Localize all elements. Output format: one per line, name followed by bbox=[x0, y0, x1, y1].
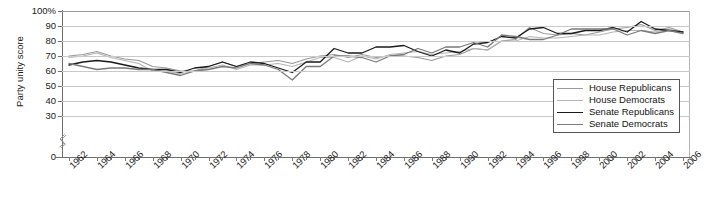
legend-item[interactable]: Senate Republicans bbox=[557, 106, 674, 118]
series-line bbox=[69, 29, 683, 80]
y-tick-label: 30 bbox=[0, 111, 56, 121]
legend-item[interactable]: House Democrats bbox=[557, 94, 674, 106]
legend-label: House Republicans bbox=[589, 83, 671, 93]
legend-item[interactable]: House Republicans bbox=[557, 82, 674, 94]
legend-line-swatch bbox=[557, 100, 583, 101]
y-tick-label: 0 bbox=[0, 152, 56, 162]
chart-legend: House RepublicansHouse DemocratsSenate R… bbox=[553, 79, 680, 133]
legend-line-swatch bbox=[557, 112, 583, 113]
y-tick-label: 50 bbox=[0, 81, 56, 91]
legend-label: Senate Republicans bbox=[589, 107, 674, 117]
gridline bbox=[62, 41, 690, 42]
y-tick-label: 90 bbox=[0, 21, 56, 31]
y-tick-label: 80 bbox=[0, 36, 56, 46]
gridline bbox=[62, 26, 690, 27]
legend-line-swatch bbox=[557, 124, 583, 125]
party-unity-chart: Party unity score 100%908070605040300 19… bbox=[0, 0, 714, 199]
y-tick-label: 40 bbox=[0, 96, 56, 106]
plot-top-border bbox=[62, 11, 690, 12]
legend-label: House Democrats bbox=[589, 95, 665, 105]
legend-line-swatch bbox=[557, 88, 583, 89]
y-tick-label: 70 bbox=[0, 51, 56, 61]
legend-item[interactable]: Senate Democrats bbox=[557, 118, 674, 130]
y-tick-label: 100% bbox=[0, 6, 56, 16]
legend-label: Senate Democrats bbox=[589, 119, 668, 129]
gridline bbox=[62, 71, 690, 72]
y-tick-label: 60 bbox=[0, 66, 56, 76]
series-line bbox=[69, 25, 683, 72]
plot-right-border bbox=[689, 11, 690, 157]
gridline bbox=[62, 56, 690, 57]
